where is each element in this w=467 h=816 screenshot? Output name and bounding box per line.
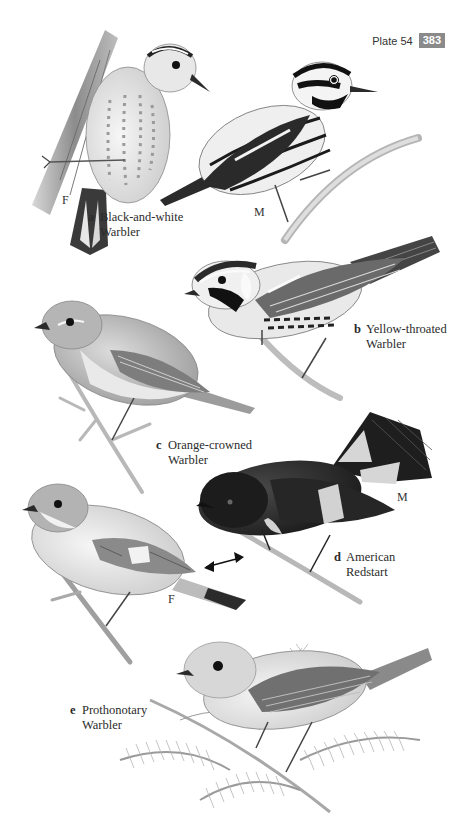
double-arrow-icon bbox=[204, 552, 244, 572]
caption-name: Black-and-white bbox=[100, 210, 183, 224]
caption-letter: b bbox=[354, 322, 366, 337]
caption-letter: e bbox=[70, 703, 82, 718]
caption-a: aBlack-and-white Warbler bbox=[88, 210, 183, 240]
bird-b-illustration bbox=[184, 236, 440, 398]
sex-label-a-female: F bbox=[62, 193, 69, 207]
illustration-layer: F bbox=[0, 0, 467, 816]
caption-name-line2: Warbler bbox=[88, 225, 183, 240]
bird-e-illustration bbox=[120, 641, 432, 812]
sex-label-d-female: F bbox=[168, 592, 175, 606]
caption-e: eProthonotary Warbler bbox=[70, 703, 147, 733]
caption-b: bYellow-throated Warbler bbox=[354, 322, 447, 352]
caption-name: Orange-crowned bbox=[168, 438, 252, 452]
caption-letter: c bbox=[156, 438, 168, 453]
caption-letter: d bbox=[334, 550, 346, 565]
branch bbox=[262, 338, 340, 398]
caption-letter: a bbox=[88, 210, 100, 225]
caption-name: American bbox=[346, 550, 395, 564]
caption-name-line2: Warbler bbox=[156, 453, 252, 468]
caption-name: Yellow-throated bbox=[366, 322, 447, 336]
caption-c: cOrange-crowned Warbler bbox=[156, 438, 252, 468]
sex-label-a-male: M bbox=[254, 205, 265, 219]
sex-label-d-male: M bbox=[397, 490, 408, 504]
caption-name-line2: Redstart bbox=[334, 565, 395, 580]
caption-name: Prothonotary bbox=[82, 703, 147, 717]
caption-name-line2: Warbler bbox=[70, 718, 147, 733]
caption-name-line2: Warbler bbox=[354, 337, 447, 352]
field-guide-plate: Plate 54 383 bbox=[0, 0, 467, 816]
caption-d: dAmerican Redstart bbox=[334, 550, 395, 580]
bird-a-male-illustration bbox=[160, 62, 418, 240]
